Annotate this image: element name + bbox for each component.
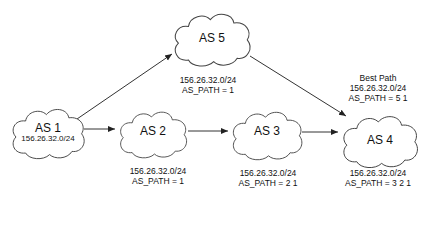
annotation-as5-aspath: AS_PATH = 1: [180, 85, 237, 95]
node-as2: AS 2: [140, 125, 166, 138]
node-as4: AS 4: [367, 134, 393, 147]
annotation-as4-best-title: Best Path: [349, 73, 408, 83]
annotation-as4-best-prefix: 156.26.32.0/24: [349, 83, 408, 93]
annotation-as4-alt: 156.26.32.0/24 AS_PATH = 3 2 1: [345, 168, 411, 188]
edge-as5-as4: [250, 56, 346, 116]
node-as5: AS 5: [199, 32, 225, 45]
node-as1-prefix: 156.26.32.0/24: [21, 134, 74, 142]
annotation-as3: 156.26.32.0/24 AS_PATH = 2 1: [239, 168, 298, 188]
annotation-as3-aspath: AS_PATH = 2 1: [239, 178, 298, 188]
annotation-as2-aspath: AS_PATH = 1: [130, 176, 187, 186]
node-as2-label: AS 2: [140, 125, 166, 138]
annotation-as4-best: Best Path 156.26.32.0/24 AS_PATH = 5 1: [349, 73, 408, 104]
node-as4-label: AS 4: [367, 134, 393, 147]
annotation-as5: 156.26.32.0/24 AS_PATH = 1: [180, 75, 237, 95]
annotation-as3-prefix: 156.26.32.0/24: [239, 168, 298, 178]
node-as3: AS 3: [254, 125, 280, 138]
annotation-as4-alt-prefix: 156.26.32.0/24: [345, 168, 411, 178]
annotation-as4-alt-aspath: AS_PATH = 3 2 1: [345, 178, 411, 188]
annotation-as4-best-aspath: AS_PATH = 5 1: [349, 93, 408, 103]
node-as5-label: AS 5: [199, 32, 225, 45]
edge-as1-as5: [77, 54, 172, 119]
annotation-as5-prefix: 156.26.32.0/24: [180, 75, 237, 85]
annotation-as2-prefix: 156.26.32.0/24: [130, 166, 187, 176]
node-as3-label: AS 3: [254, 125, 280, 138]
annotation-as2: 156.26.32.0/24 AS_PATH = 1: [130, 166, 187, 186]
node-as1-label: AS 1: [21, 122, 74, 135]
node-as1: AS 1 156.26.32.0/24: [21, 122, 74, 143]
